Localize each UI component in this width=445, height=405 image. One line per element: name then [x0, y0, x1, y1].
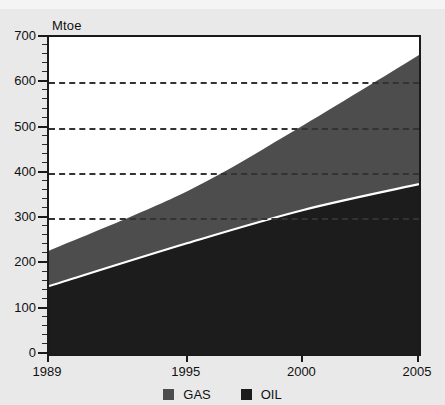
- y-tick-300: [38, 216, 47, 218]
- y-tick-minor-620: [42, 71, 47, 72]
- x-tick-label-2000: 2000: [287, 364, 316, 379]
- chart-legend: GASOIL: [0, 387, 445, 402]
- legend-label-gas: GAS: [183, 387, 210, 402]
- y-tick-label-700: 700: [14, 28, 36, 43]
- y-tick-label-500: 500: [14, 118, 36, 133]
- y-tick-minor-480: [42, 135, 47, 136]
- y-tick-minor-680: [42, 44, 47, 45]
- y-tick-label-100: 100: [14, 299, 36, 314]
- chart-figure: Mtoe 0100200300400500600700 198919952000…: [0, 9, 445, 405]
- y-tick-minor-160: [42, 280, 47, 281]
- x-tick-1989: [47, 354, 49, 362]
- y-axis: 0100200300400500600700: [0, 35, 47, 356]
- plot-area: [47, 35, 421, 356]
- y-tick-minor-40: [42, 334, 47, 335]
- y-tick-minor-280: [42, 225, 47, 226]
- y-tick-minor-260: [42, 234, 47, 235]
- legend-swatch-oil: [241, 389, 252, 400]
- y-tick-400: [38, 171, 47, 173]
- y-tick-700: [38, 35, 47, 37]
- x-tick-label-2005: 2005: [403, 364, 432, 379]
- y-tick-minor-140: [42, 289, 47, 290]
- y-tick-minor-640: [42, 62, 47, 63]
- y-tick-minor-380: [42, 180, 47, 181]
- y-tick-minor-180: [42, 271, 47, 272]
- x-tick-2000: [301, 354, 303, 362]
- y-tick-minor-120: [42, 298, 47, 299]
- legend-item-gas[interactable]: GAS: [163, 387, 210, 402]
- y-tick-minor-20: [42, 343, 47, 344]
- x-axis: 1989199520002005: [0, 354, 445, 384]
- y-tick-minor-60: [42, 325, 47, 326]
- y-tick-minor-360: [42, 189, 47, 190]
- y-tick-200: [38, 261, 47, 263]
- y-tick-minor-240: [42, 243, 47, 244]
- y-tick-minor-560: [42, 98, 47, 99]
- y-tick-minor-420: [42, 162, 47, 163]
- y-tick-minor-80: [42, 316, 47, 317]
- legend-item-oil[interactable]: OIL: [241, 387, 282, 402]
- x-tick-2005: [417, 354, 419, 362]
- y-tick-minor-580: [42, 89, 47, 90]
- y-tick-minor-660: [42, 53, 47, 54]
- y-tick-minor-460: [42, 144, 47, 145]
- y-tick-100: [38, 307, 47, 309]
- y-axis-unit-label: Mtoe: [52, 18, 82, 33]
- legend-label-oil: OIL: [261, 387, 282, 402]
- gridline-600: [49, 82, 419, 84]
- y-tick-label-600: 600: [14, 73, 36, 88]
- y-tick-minor-540: [42, 108, 47, 109]
- y-tick-label-400: 400: [14, 163, 36, 178]
- plot-inner: [49, 37, 419, 354]
- x-tick-label-1989: 1989: [33, 364, 62, 379]
- y-tick-label-300: 300: [14, 209, 36, 224]
- stacked-area-series: [49, 37, 419, 354]
- scan-artifact-strip: [0, 0, 445, 9]
- legend-swatch-gas: [163, 389, 174, 400]
- y-tick-label-200: 200: [14, 254, 36, 269]
- gridline-500: [49, 128, 419, 130]
- y-tick-minor-220: [42, 252, 47, 253]
- x-tick-1995: [186, 354, 188, 362]
- x-tick-label-1995: 1995: [171, 364, 200, 379]
- y-tick-minor-520: [42, 117, 47, 118]
- gridline-400: [49, 173, 419, 175]
- gridline-300: [49, 218, 419, 220]
- y-tick-600: [38, 80, 47, 82]
- y-tick-minor-440: [42, 153, 47, 154]
- y-tick-minor-340: [42, 198, 47, 199]
- y-tick-500: [38, 126, 47, 128]
- y-tick-minor-320: [42, 207, 47, 208]
